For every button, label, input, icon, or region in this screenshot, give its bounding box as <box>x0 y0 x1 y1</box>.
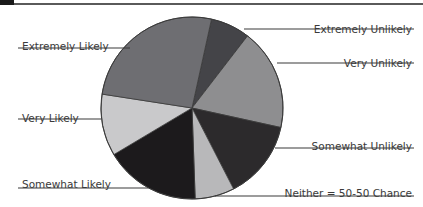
slice-label: Extremely Unlikely <box>314 23 412 35</box>
slice-label: Very Likely <box>22 112 79 124</box>
slice-label: Very Unlikely <box>344 57 412 69</box>
slice-label: Somewhat Likely <box>22 178 111 190</box>
pie-slices <box>101 17 283 199</box>
slice-label: Neither = 50-50 Chance <box>285 187 412 199</box>
slice-label: Extremely Likely <box>22 40 109 52</box>
slice-label: Somewhat Unlikely <box>312 140 412 152</box>
pie-slice-extremely-likely <box>102 17 211 108</box>
pie-chart: Extremely UnlikelyVery UnlikelySomewhat … <box>0 0 423 207</box>
